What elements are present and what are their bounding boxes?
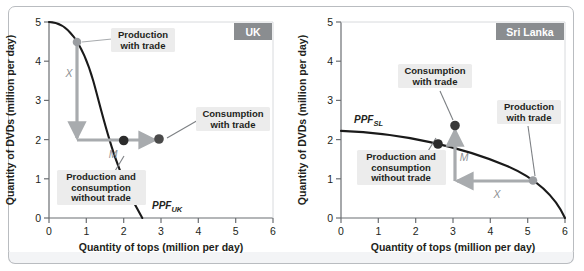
callout-consumption-line2-uk: with trade: [210, 119, 256, 130]
export-label-uk: X: [64, 67, 73, 79]
point-production-with-trade-sri-lanka[interactable]: [529, 176, 538, 185]
y-tick-labels-sri-lanka: 0 1 2 3 4 5: [327, 16, 333, 224]
x-tick-marks-sri-lanka: [341, 218, 565, 223]
badge-label-uk: UK: [245, 26, 261, 38]
callout-production-line1-uk: Production: [118, 29, 168, 40]
callout-autarky-line1-sri-lanka: Production and: [366, 151, 436, 162]
y-tick-marks-sri-lanka: [336, 22, 341, 218]
point-consumption-with-trade-uk[interactable]: [154, 134, 164, 144]
x-tick-label: 5: [233, 225, 239, 237]
x-tick-label: 2: [413, 225, 419, 237]
ppf-label-main-uk: PPF: [152, 200, 172, 211]
callout-autarky-line2-uk: consumption: [71, 182, 131, 193]
x-tick-label: 2: [121, 225, 127, 237]
callout-autarky-line1-uk: Production and: [66, 171, 136, 182]
callout-autarky-line3-uk: without trade: [70, 192, 131, 203]
y-axis-title-sri-lanka: Quantity of DVDs (million per day): [296, 35, 308, 205]
x-tick-label: 4: [487, 225, 493, 237]
x-tick-label: 1: [375, 225, 381, 237]
callout-production-line1-sri-lanka: Production: [504, 101, 554, 112]
y-tick-label: 0: [327, 212, 333, 224]
badge-label-sri-lanka: Sri Lanka: [506, 26, 553, 38]
callout-production-line2-sri-lanka: with trade: [506, 112, 552, 123]
y-tick-label: 3: [327, 94, 333, 106]
x-tick-label: 6: [562, 225, 568, 237]
y-tick-label: 4: [327, 55, 333, 67]
x-tick-label: 0: [46, 225, 52, 237]
x-axis-title-sri-lanka: Quantity of tops (million per day): [371, 241, 536, 253]
y-tick-label: 4: [35, 55, 41, 67]
x-tick-label: 6: [270, 225, 276, 237]
y-tick-label: 1: [35, 173, 41, 185]
x-tick-label: 5: [525, 225, 531, 237]
ppf-label-sub-sri-lanka: SL: [373, 119, 383, 128]
point-autarky-uk[interactable]: [119, 136, 129, 146]
y-tick-marks-uk: [44, 22, 49, 218]
y-tick-label: 1: [327, 173, 333, 185]
y-tick-label: 2: [35, 134, 41, 146]
ppf-label-main-sri-lanka: PPF: [354, 114, 374, 125]
panel-uk: 0 1 2 3 4 5 0 1 2 3 4: [0, 6, 292, 257]
y-tick-labels-uk: 0 1 2 3 4 5: [35, 16, 41, 224]
callout-consumption-line1-sri-lanka: Consumption: [404, 65, 465, 76]
x-tick-labels-uk: 0 1 2 3 4 5 6: [46, 225, 276, 237]
y-tick-label: 0: [35, 212, 41, 224]
callout-production-line2-uk: with trade: [120, 40, 166, 51]
import-label-sri-lanka: M: [460, 151, 469, 163]
y-tick-label: 5: [35, 16, 41, 28]
y-axis-title-uk: Quantity of DVDs (million per day): [4, 35, 16, 205]
figure-container: 0 1 2 3 4 5 0 1 2 3 4: [0, 0, 584, 271]
ppf-label-sub-uk: UK: [171, 205, 182, 214]
y-tick-label: 5: [327, 16, 333, 28]
import-label-uk: M: [109, 148, 118, 160]
point-consumption-with-trade-sri-lanka[interactable]: [450, 121, 460, 131]
y-tick-label: 3: [35, 94, 41, 106]
point-autarky-sri-lanka[interactable]: [433, 139, 443, 149]
y-tick-label: 2: [327, 134, 333, 146]
x-tick-label: 0: [338, 225, 344, 237]
x-tick-label: 4: [195, 225, 201, 237]
x-tick-marks-uk: [49, 218, 273, 223]
x-tick-labels-sri-lanka: 0 1 2 3 4 5 6: [338, 225, 568, 237]
x-axis-title-uk: Quantity of tops (million per day): [79, 241, 244, 253]
callout-consumption-line1-uk: Consumption: [202, 108, 263, 119]
x-tick-label: 3: [158, 225, 164, 237]
callout-autarky-line2-sri-lanka: consumption: [371, 162, 431, 173]
callout-autarky-line3-sri-lanka: without trade: [370, 172, 431, 183]
panel-sri-lanka: 0 1 2 3 4 5 0 1 2 3 4: [292, 6, 584, 257]
point-production-with-trade-uk[interactable]: [73, 38, 82, 47]
callout-consumption-line2-sri-lanka: with trade: [412, 76, 458, 87]
export-label-sri-lanka: X: [492, 188, 501, 200]
x-tick-label: 3: [450, 225, 456, 237]
x-tick-label: 1: [83, 225, 89, 237]
